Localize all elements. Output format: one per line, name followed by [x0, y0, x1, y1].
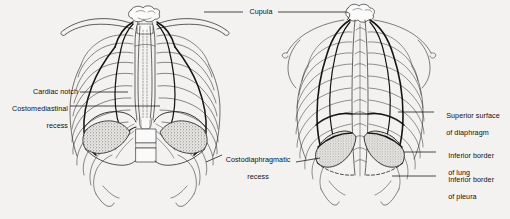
label-costodiaphragmatic-line2: recess	[247, 172, 268, 181]
anatomy-figure: Cupula Cardiac notch Costomediastinal re…	[0, 0, 510, 219]
label-costomediastinal-recess: Costomediastinal recess	[0, 97, 68, 139]
label-superior-surface-line2: of diaphragm	[446, 128, 489, 137]
label-costomediastinal-line1: Costomediastinal	[12, 104, 68, 113]
label-inferior-pleura-line2: of pleura	[448, 192, 476, 201]
label-inferior-border-pleura: Inferior border of pleura	[440, 168, 508, 210]
label-cupula: Cupula	[244, 8, 278, 16]
label-costodiaphragmatic-line1: Costodiaphragmatic	[226, 155, 291, 164]
label-costodiaphragmatic-recess: Costodiaphragmatic recess	[212, 148, 296, 190]
label-inferior-lung-line1: Inferior border	[448, 151, 494, 160]
label-costomediastinal-line2: recess	[47, 121, 68, 130]
label-inferior-pleura-line1: Inferior border	[448, 175, 494, 184]
label-superior-surface-line1: Superior surface	[446, 111, 500, 120]
label-cardiac-notch: Cardiac notch	[6, 88, 78, 96]
label-superior-surface-diaphragm: Superior surface of diaphragm	[438, 104, 508, 146]
